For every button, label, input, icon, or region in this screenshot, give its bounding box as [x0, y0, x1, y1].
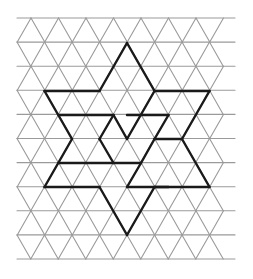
grid-diagonal-line — [100, 211, 114, 235]
grid-diagonal-line — [113, 139, 127, 163]
grid-diagonal-line — [210, 42, 224, 66]
star-edge — [100, 115, 114, 139]
grid-diagonal-line — [127, 235, 141, 259]
grid-diagonal-line — [86, 66, 100, 90]
grid-diagonal-line — [210, 163, 224, 187]
grid-diagonal-line — [100, 235, 114, 259]
grid-diagonal-line — [155, 66, 169, 90]
grid-diagonal-line — [168, 235, 182, 259]
grid-diagonal-line — [127, 18, 141, 42]
grid-diagonal-line — [31, 66, 45, 90]
grid-diagonal-line — [155, 235, 169, 259]
star-edge — [141, 139, 155, 163]
grid-diagonal-line — [155, 42, 169, 66]
grid-diagonal-line — [210, 235, 224, 259]
grid-diagonal-line — [31, 18, 45, 42]
grid-diagonal-line — [196, 42, 210, 66]
grid-diagonal-line — [31, 42, 45, 66]
grid-diagonal-line — [45, 211, 59, 235]
grid-diagonal-line — [127, 187, 141, 211]
grid-diagonal-line — [17, 235, 31, 259]
grid-diagonal-line — [155, 18, 169, 42]
grid-diagonal-line — [196, 139, 210, 163]
star-edge — [127, 163, 141, 187]
grid-diagonal-line — [58, 42, 72, 66]
grid-diagonal-line — [182, 235, 196, 259]
grid-diagonal-line — [59, 18, 73, 42]
grid-diagonal-line — [86, 18, 100, 42]
grid-diagonal-line — [45, 42, 59, 66]
grid-diagonal-line — [127, 66, 141, 90]
grid-diagonal-line — [17, 139, 31, 163]
grid-diagonal-line — [100, 18, 114, 42]
grid-diagonal-line — [72, 90, 86, 114]
grid-diagonal-line — [45, 66, 59, 90]
grid-diagonal-line — [196, 235, 210, 259]
grid-diagonal-line — [72, 66, 86, 90]
grid-diagonal-line — [182, 163, 196, 187]
grid-diagonal-line — [210, 187, 224, 211]
grid-diagonal-line — [72, 211, 86, 235]
grid-diagonal-line — [155, 139, 169, 163]
grid-diagonal-line — [17, 163, 31, 187]
grid-diagonal-line — [86, 42, 100, 66]
grid-diagonal-line — [31, 163, 45, 187]
grid-diagonal-line — [113, 235, 127, 259]
grid-diagonal-line — [182, 211, 196, 235]
grid-diagonal-line — [31, 90, 45, 114]
grid-diagonal-line — [169, 114, 183, 138]
grid-diagonal-line — [72, 42, 86, 66]
grid-diagonal-line — [72, 163, 86, 187]
grid-diagonal-line — [141, 114, 155, 138]
grid-diagonal-line — [100, 90, 114, 114]
grid-diagonal-line — [100, 163, 114, 187]
triangle-grid-star-diagram — [0, 0, 253, 279]
grid-diagonal-line — [17, 42, 31, 66]
grid-diagonal-line — [114, 66, 128, 90]
grid-diagonal-line — [31, 139, 45, 163]
grid-diagonal-line — [169, 66, 183, 90]
grid-diagonal-line — [196, 66, 210, 90]
grid-diagonal-line — [196, 211, 210, 235]
grid-diagonal-line — [141, 211, 155, 235]
grid-diagonal-line — [17, 90, 31, 114]
grid-diagonal-line — [100, 42, 114, 66]
grid-diagonal-line — [155, 90, 169, 114]
star-edge — [155, 115, 169, 139]
grid-diagonal-line — [31, 211, 45, 235]
grid-diagonal-line — [168, 90, 182, 114]
grid-diagonal-line — [182, 66, 196, 90]
grid-diagonal-line — [86, 235, 100, 259]
grid-diagonal-line — [72, 114, 86, 138]
grid-diagonal-line — [59, 211, 73, 235]
grid-diagonal-line — [58, 90, 72, 114]
grid-diagonal-line — [168, 187, 182, 211]
grid-diagonal-line — [196, 18, 210, 42]
grid-diagonal-line — [17, 187, 31, 211]
grid-diagonal-line — [58, 187, 72, 211]
grid-diagonal-line — [45, 139, 59, 163]
grid-diagonal-line — [210, 211, 224, 235]
grid-diagonal-line — [169, 18, 183, 42]
grid-diagonal-line — [127, 90, 141, 114]
grid-diagonal-line — [72, 235, 86, 259]
grid-diagonal-line — [141, 18, 155, 42]
grid-diagonal-line — [141, 42, 155, 66]
grid-diagonal-line — [17, 211, 31, 235]
grid-diagonal-line — [31, 114, 45, 138]
grid-diagonal-line — [17, 114, 31, 138]
grid-diagonal-line — [210, 66, 224, 90]
grid-diagonal-line — [169, 211, 183, 235]
grid-diagonal-line — [45, 18, 59, 42]
grid-diagonal-line — [72, 139, 86, 163]
grid-diagonal-line — [168, 139, 182, 163]
grid-diagonal-line — [196, 187, 210, 211]
grid-diagonal-line — [141, 235, 155, 259]
grid-diagonal-line — [182, 90, 196, 114]
grid-diagonal-line — [114, 163, 128, 187]
grid-diagonal-line — [155, 163, 169, 187]
grid-diagonal-line — [86, 211, 100, 235]
grid-diagonal-line — [114, 18, 128, 42]
grid-diagonal-line — [168, 42, 182, 66]
grid-diagonal-line — [182, 18, 196, 42]
